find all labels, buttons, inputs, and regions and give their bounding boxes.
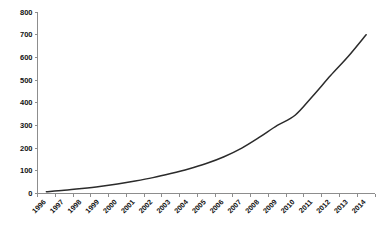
y-tick-label: 300 (20, 121, 33, 130)
x-tick-label: 1996 (30, 198, 48, 216)
x-tick-label: 2004 (172, 198, 190, 216)
y-tick-label: 800 (20, 8, 33, 17)
x-tick-label: 2003 (154, 198, 172, 216)
y-tick-label: 100 (20, 166, 33, 175)
x-tick-label: 2010 (279, 198, 297, 216)
x-tick-label: 1997 (48, 198, 66, 216)
y-tick-label: 700 (20, 30, 33, 39)
line-chart: 0100200300400500600700800 19961997199819… (0, 0, 381, 230)
x-tick-label: 2013 (332, 198, 350, 216)
x-tick-label: 1998 (66, 198, 84, 216)
x-tick-label: 2012 (314, 198, 332, 216)
x-tick-label: 2006 (208, 198, 226, 216)
x-tick-label: 2007 (226, 198, 244, 216)
y-tick-label: 200 (20, 144, 33, 153)
x-tick-label: 2005 (190, 198, 208, 216)
x-tick-label: 2001 (119, 198, 137, 216)
data-series (46, 35, 366, 192)
x-tick-label: 2014 (350, 198, 368, 216)
chart-canvas: 0100200300400500600700800 19961997199819… (0, 0, 381, 230)
y-tick-label: 600 (20, 53, 33, 62)
x-tick-label: 2011 (297, 198, 314, 215)
y-tick-label: 500 (20, 76, 33, 85)
x-tick-label: 2002 (137, 198, 155, 216)
y-tick-labels: 0100200300400500600700800 (20, 8, 33, 199)
series-line-cumulative-total (46, 35, 366, 192)
x-tick-label: 2009 (261, 198, 279, 216)
y-tick-label: 400 (20, 98, 33, 107)
x-tick-label: 2000 (101, 198, 119, 216)
x-tick-label: 1999 (83, 198, 101, 216)
x-tick-label: 2008 (243, 198, 261, 216)
y-tick-label: 0 (28, 189, 32, 198)
x-tick-labels: 1996199719981999200020012002200320042005… (30, 198, 367, 216)
